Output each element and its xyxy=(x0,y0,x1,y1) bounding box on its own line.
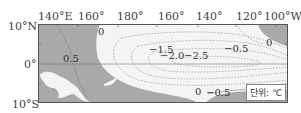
y-tick-10n: 10°N xyxy=(8,21,37,32)
x-tick-160e: 160° xyxy=(78,11,105,22)
unit-legend: 단위: ℃ xyxy=(246,84,286,101)
contour-label-east-zero: 0 xyxy=(266,38,272,48)
contour-label-west-0-5: 0.5 xyxy=(63,54,79,64)
x-tick-160w: 160° xyxy=(158,11,185,22)
contour-label-south-minus-0-5: −0.5 xyxy=(206,88,230,98)
contour-label-south-zero: 0 xyxy=(195,87,201,97)
x-tick-180: 180° xyxy=(117,11,144,22)
x-tick-140w: 140° xyxy=(196,11,223,22)
sst-anomaly-map: 0 0.5 −1.5 −2.0 −2.5 −0.5 0 0 −0.5 단위: ℃ xyxy=(38,24,288,103)
contour-label-minus-2-0: −2.0 xyxy=(160,51,184,61)
y-tick-0: 0° xyxy=(24,59,37,70)
x-tick-140e: 140°E xyxy=(38,11,73,22)
contour-label-minus-2-5: −2.5 xyxy=(184,51,208,61)
x-tick-120w: 120° xyxy=(236,11,263,22)
y-tick-10s: 10°S xyxy=(12,99,39,110)
contour-label-east-minus-0-5: −0.5 xyxy=(224,44,248,54)
x-tick-100w: 100°W xyxy=(264,11,301,22)
contour-label-west-zero: 0 xyxy=(98,27,104,37)
